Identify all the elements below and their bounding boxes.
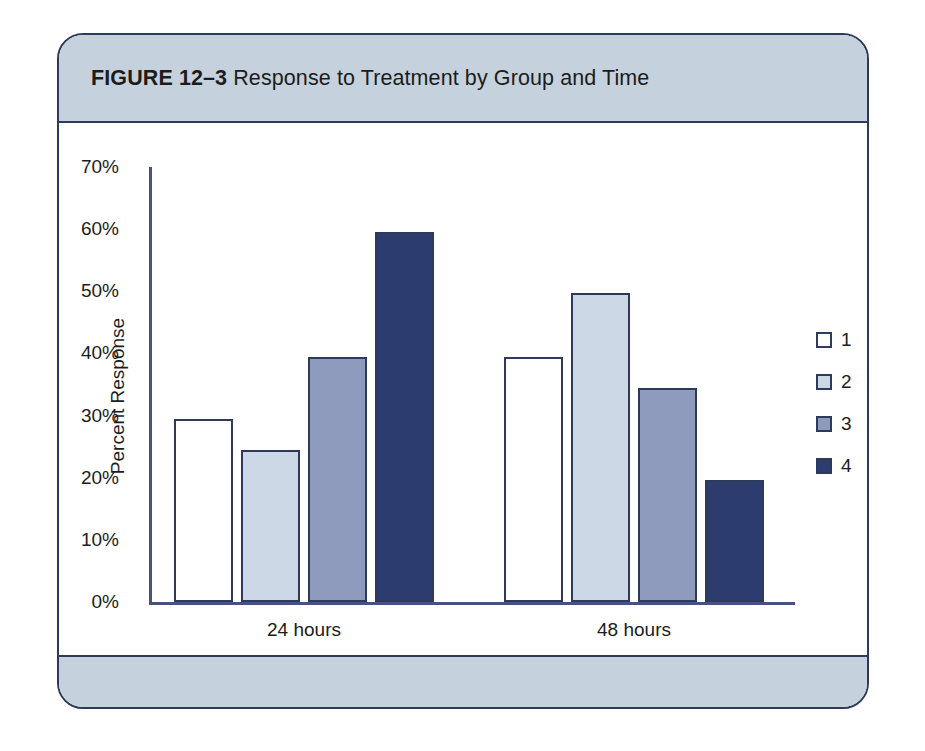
figure-title-text: Response to Treatment by Group and Time [233, 66, 649, 90]
bar [705, 480, 764, 602]
legend-label: 3 [841, 413, 852, 435]
bars-layer [152, 167, 795, 602]
legend-item: 3 [816, 403, 852, 445]
bar [375, 232, 434, 602]
figure-header-band: FIGURE 12–3 Response to Treatment by Gro… [59, 35, 867, 123]
figure-footer-band [59, 655, 867, 707]
y-tick-label: 0% [57, 591, 119, 613]
legend-swatch-icon [816, 332, 832, 348]
y-tick-label: 20% [57, 467, 119, 489]
legend-swatch-icon [816, 374, 832, 390]
chart-legend: 1234 [816, 319, 852, 487]
y-tick-label: 60% [57, 218, 119, 240]
x-axis-group-label: 48 hours [534, 619, 734, 641]
figure-title: FIGURE 12–3 Response to Treatment by Gro… [91, 66, 649, 91]
y-tick-label: 50% [57, 280, 119, 302]
y-tick-label: 10% [57, 529, 119, 551]
x-axis-group-label: 24 hours [204, 619, 404, 641]
legend-item: 2 [816, 361, 852, 403]
bar [638, 388, 697, 602]
legend-label: 4 [841, 455, 852, 477]
figure-frame: FIGURE 12–3 Response to Treatment by Gro… [57, 33, 869, 709]
y-tick-label: 40% [57, 342, 119, 364]
chart-plot-region: Percent Response 0%10%20%30%40%50%60%70%… [59, 123, 867, 655]
bar [174, 419, 233, 602]
bar [571, 293, 630, 602]
legend-item: 4 [816, 445, 852, 487]
legend-swatch-icon [816, 458, 832, 474]
bar [241, 450, 300, 602]
bar [308, 357, 367, 602]
legend-label: 1 [841, 329, 852, 351]
y-tick-label: 70% [57, 156, 119, 178]
legend-swatch-icon [816, 416, 832, 432]
legend-item: 1 [816, 319, 852, 361]
y-tick-label: 30% [57, 405, 119, 427]
bar [504, 357, 563, 602]
figure-number-label: FIGURE 12–3 [91, 66, 227, 90]
x-axis-line [149, 602, 795, 605]
legend-label: 2 [841, 371, 852, 393]
